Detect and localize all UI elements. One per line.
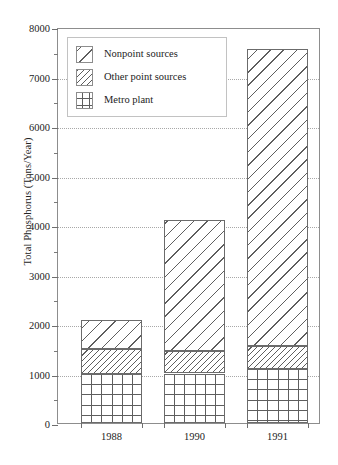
- y-tick-label: 3000: [29, 271, 50, 282]
- y-tick-major: [52, 326, 58, 327]
- bar-segment-nonpoint: [247, 49, 308, 346]
- x-tick: [225, 423, 226, 428]
- bar-segment-metro: [164, 374, 225, 424]
- legend-item-other-point: Other point sources: [68, 66, 226, 89]
- bar-segment-otherpoint: [81, 349, 142, 374]
- y-tick-minor: [54, 400, 58, 401]
- y-tick-label: 8000: [29, 24, 50, 35]
- x-tick-label: 1990: [184, 432, 205, 443]
- y-tick-label: 7000: [29, 73, 50, 84]
- y-tick-label: 1000: [29, 370, 50, 381]
- phosphorus-stacked-bar-chart: Total Phosphorus (Tons/Year) 01000200030…: [0, 0, 338, 465]
- y-tick-major: [52, 227, 58, 228]
- x-tick-label: 1991: [267, 432, 288, 443]
- y-tick-minor: [54, 103, 58, 104]
- y-tick-label: 0: [45, 420, 50, 431]
- legend-label-other-point: Other point sources: [104, 72, 186, 83]
- x-tick: [308, 423, 309, 428]
- x-tick: [247, 423, 248, 428]
- y-tick-major: [52, 178, 58, 179]
- legend-label-nonpoint: Nonpoint sources: [104, 49, 178, 60]
- bar-segment-metro: [247, 369, 308, 423]
- bar-segment-nonpoint: [81, 320, 142, 349]
- y-tick-minor: [54, 153, 58, 154]
- y-tick-major: [52, 277, 58, 278]
- bar-segment-otherpoint: [247, 346, 308, 368]
- y-tick-minor: [54, 252, 58, 253]
- y-tick-label: 5000: [29, 172, 50, 183]
- legend-swatch-other-point-icon: [76, 69, 93, 86]
- x-tick: [81, 423, 82, 428]
- legend-item-nonpoint: Nonpoint sources: [68, 43, 226, 66]
- legend-item-metro-plant: Metro plant: [68, 89, 226, 112]
- y-tick-minor: [54, 301, 58, 302]
- y-tick-minor: [54, 351, 58, 352]
- bar-1991: [247, 27, 308, 423]
- y-tick-label: 6000: [29, 123, 50, 134]
- y-tick-major: [52, 79, 58, 80]
- y-tick-label: 4000: [29, 222, 50, 233]
- legend-swatch-nonpoint-icon: [76, 46, 93, 63]
- chart-legend: Nonpoint sources Other point sources Met…: [67, 37, 227, 117]
- y-tick-major: [52, 29, 58, 30]
- x-tick: [164, 423, 165, 428]
- y-tick-major: [52, 376, 58, 377]
- bar-segment-nonpoint: [164, 220, 225, 351]
- bar-segment-metro: [81, 374, 142, 424]
- bar-segment-otherpoint: [164, 351, 225, 373]
- x-tick: [142, 423, 143, 428]
- x-tick-label: 1988: [101, 432, 122, 443]
- y-tick-major: [52, 128, 58, 129]
- y-tick-label: 2000: [29, 321, 50, 332]
- legend-swatch-metro-plant-icon: [76, 92, 93, 109]
- legend-label-metro-plant: Metro plant: [104, 95, 153, 106]
- y-tick-minor: [54, 54, 58, 55]
- y-tick-minor: [54, 202, 58, 203]
- y-tick-major: [52, 425, 58, 426]
